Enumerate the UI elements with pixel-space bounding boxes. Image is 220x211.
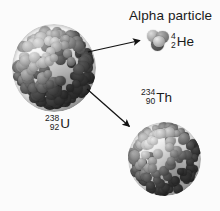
helium-isotope-numbers: 4 2 (171, 32, 176, 51)
thorium-symbol: Th (156, 91, 172, 105)
alpha-particle-nucleus (146, 29, 169, 51)
uranium-symbol: U (60, 117, 70, 131)
alpha-particle-label: Alpha particle (129, 9, 212, 23)
uranium-isotope-label: 238 92 U (45, 114, 70, 133)
thorium-isotope-label: 234 90 Th (141, 88, 172, 107)
thorium-atomic-number: 90 (146, 97, 155, 106)
thorium-isotope-numbers: 234 90 (141, 88, 155, 107)
uranium-isotope-numbers: 238 92 (45, 114, 59, 133)
helium-symbol: He (177, 35, 194, 49)
helium-isotope-label: 4 2 He (171, 32, 194, 51)
uranium-atomic-number: 92 (50, 123, 59, 132)
uranium-nucleus (12, 24, 96, 112)
thorium-nucleus (128, 122, 201, 196)
arrow-to-alpha-particle (88, 41, 140, 53)
arrow-to-thorium-nucleus (87, 89, 130, 127)
alpha-decay-figure: Alpha particle 4 2 He 234 90 Th 238 92 U (0, 0, 220, 211)
helium-atomic-number: 2 (171, 41, 176, 50)
